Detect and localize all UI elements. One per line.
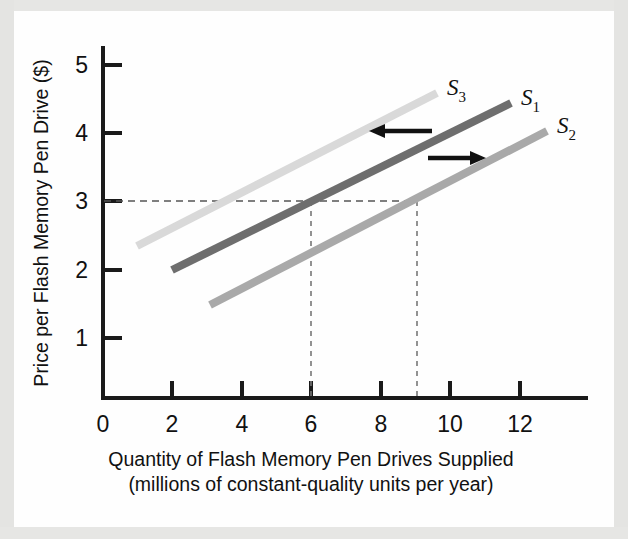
s3-letter: S: [447, 75, 459, 100]
y-tick-label-2: 2: [75, 257, 88, 283]
y-tick-label-4: 4: [75, 120, 88, 146]
supply-curve-s1: [172, 103, 511, 270]
x-axis-title-line1: Quantity of Flash Memory Pen Drives Supp…: [108, 448, 513, 470]
y-tick-label-1: 1: [75, 325, 88, 351]
s1-letter: S: [521, 85, 533, 110]
supply-curve-s2: [210, 131, 547, 305]
s1-subscript: 1: [533, 99, 541, 115]
y-axis-title: Price per Flash Memory Pen Drive ($): [30, 59, 52, 386]
x-axis-title-line2: (millions of constant-quality units per …: [128, 473, 493, 495]
x-tick-label-8: 8: [375, 411, 388, 437]
y-tick-label-5: 5: [75, 52, 88, 78]
y-tick-label-3: 3: [75, 188, 88, 214]
supply-curve-label-s2: S2: [557, 113, 576, 143]
x-tick-label-12: 12: [507, 411, 533, 437]
x-tick-label-6: 6: [305, 411, 318, 437]
x-origin-label: 0: [97, 411, 110, 437]
x-tick-label-10: 10: [437, 411, 463, 437]
supply-curve-s3: [137, 93, 437, 246]
s2-subscript: 2: [569, 127, 577, 143]
supply-curve-chart: 5 4 3 2 1 0 2 4 6 8 10 12 S3 S1 S2 Price…: [0, 0, 628, 539]
x-tick-label-2: 2: [166, 411, 179, 437]
x-tick-label-4: 4: [236, 411, 249, 437]
s2-letter: S: [557, 113, 569, 138]
supply-curve-label-s3: S3: [447, 75, 466, 105]
supply-curve-label-s1: S1: [521, 85, 540, 115]
s3-subscript: 3: [459, 89, 467, 105]
